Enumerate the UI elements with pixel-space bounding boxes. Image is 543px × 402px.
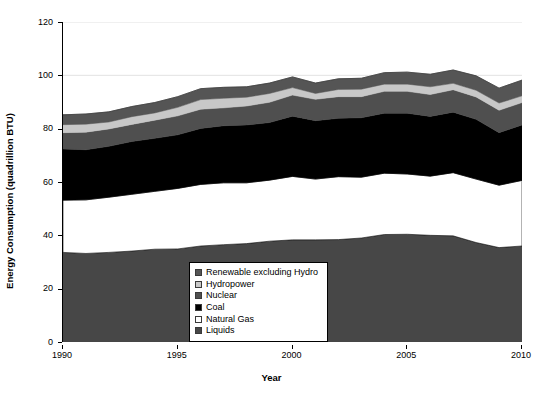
legend-item: Renewable excluding Hydro <box>195 267 318 279</box>
x-tick-label: 1995 <box>157 351 197 360</box>
legend-swatch-icon <box>195 304 202 311</box>
x-tick-label: 1990 <box>42 351 82 360</box>
y-tick-label: 0 <box>23 338 53 347</box>
legend: Renewable excluding HydroHydropowerNucle… <box>189 262 328 342</box>
x-axis-title-text: Year <box>261 372 281 383</box>
legend-label: Natural Gas <box>206 315 254 324</box>
x-tick-mark <box>521 345 522 349</box>
y-tick-label: 20 <box>23 284 53 293</box>
legend-item: Natural Gas <box>195 313 318 325</box>
legend-label: Nuclear <box>206 291 237 300</box>
x-tick-label: 2000 <box>272 351 312 360</box>
y-tick-mark <box>58 342 62 343</box>
legend-swatch-icon <box>195 292 202 299</box>
y-tick-label: 40 <box>23 231 53 240</box>
legend-swatch-icon <box>195 327 202 334</box>
legend-label: Liquids <box>206 326 235 335</box>
legend-swatch-icon <box>195 316 202 323</box>
y-tick-label: 80 <box>23 124 53 133</box>
x-tick-label: 2010 <box>501 351 541 360</box>
legend-swatch-icon <box>195 269 202 276</box>
y-tick-label: 120 <box>23 18 53 27</box>
x-axis-title: Year <box>0 372 543 383</box>
legend-label: Coal <box>206 303 225 312</box>
x-tick-mark <box>177 345 178 349</box>
legend-swatch-icon <box>195 281 202 288</box>
legend-item: Liquids <box>195 325 318 337</box>
y-axis-ticks: 020406080100120 <box>0 22 62 342</box>
x-tick-label: 2005 <box>386 351 426 360</box>
figure: Energy Consumption (quadrillion BTU) 020… <box>0 0 543 402</box>
legend-item: Nuclear <box>195 290 318 302</box>
x-axis-ticks: 19901995200020052010 <box>62 345 521 359</box>
x-tick-mark <box>406 345 407 349</box>
x-tick-mark <box>62 345 63 349</box>
legend-label: Hydropower <box>206 280 255 289</box>
x-tick-mark <box>292 345 293 349</box>
y-tick-label: 100 <box>23 71 53 80</box>
legend-item: Hydropower <box>195 279 318 291</box>
y-tick-label: 60 <box>23 178 53 187</box>
legend-label: Renewable excluding Hydro <box>206 268 318 277</box>
legend-item: Coal <box>195 302 318 314</box>
